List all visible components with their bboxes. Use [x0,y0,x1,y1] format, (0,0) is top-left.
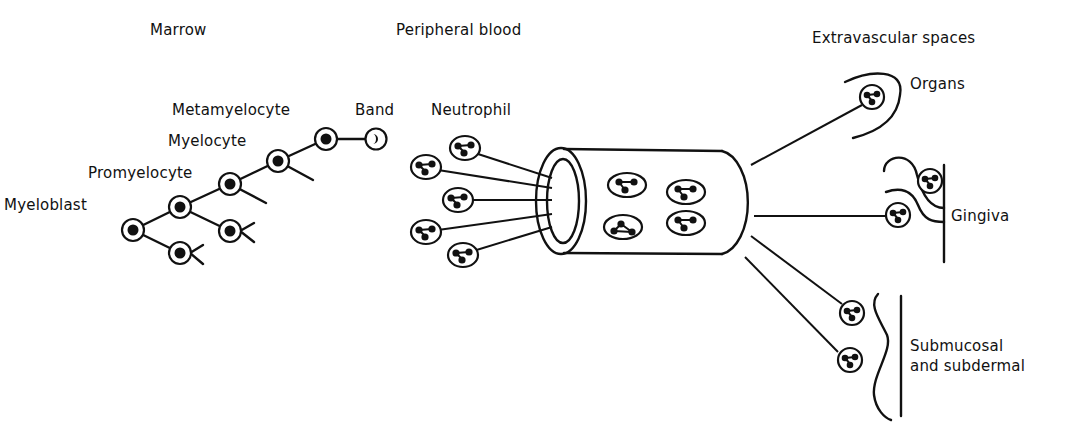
submucosal-site [838,294,901,420]
label-myelocyte: Myelocyte [168,132,246,150]
myelocyte-cell-upper [267,150,289,172]
label-promyelocyte: Promyelocyte [88,164,193,182]
metamyelocyte-cell [315,128,337,150]
label-neutrophil: Neutrophil [431,101,511,119]
myelocyte-cell [219,173,241,195]
section-title-peripheral-blood: Peripheral blood [396,21,521,39]
blood-vessel [536,148,748,254]
circulating-neutrophils-entering [411,136,552,267]
section-title-marrow: Marrow [150,21,207,39]
myeloblast-cell [122,219,144,241]
organs-site [845,74,900,138]
band-cell [366,129,387,150]
promyelocyte-cell [169,196,191,218]
promyelocyte-cell-branch [169,242,191,264]
label-subdermal: and subdermal [910,357,1025,375]
label-organs: Organs [910,75,965,93]
gingiva-site [884,158,944,262]
myelocyte-cell-branch [219,220,241,242]
label-metamyelocyte: Metamyelocyte [172,101,290,119]
section-title-extravascular: Extravascular spaces [812,29,975,47]
marrow-lineage-tree [122,128,387,264]
label-gingiva: Gingiva [951,207,1009,225]
label-submucosal: Submucosal [910,337,1003,355]
label-band: Band [355,101,394,119]
label-myeloblast: Myeloblast [4,196,87,214]
neutrophil-kinetics-diagram: Marrow Peripheral blood Extravascular sp… [0,0,1076,440]
